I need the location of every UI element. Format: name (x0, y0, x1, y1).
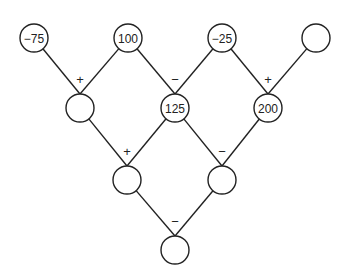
number-pyramid-diagram: +−++−− −75100−25125200 (0, 0, 345, 278)
operator-label: − (171, 72, 179, 87)
edge (184, 119, 222, 166)
edge (127, 119, 166, 166)
node-value: −25 (212, 32, 233, 46)
pyramid-node[interactable] (161, 236, 189, 264)
pyramid-node[interactable]: 100 (114, 24, 142, 52)
pyramid-node[interactable] (66, 94, 94, 122)
pyramid-node[interactable] (302, 24, 330, 52)
pyramid-node[interactable]: −25 (208, 24, 236, 52)
pyramid-node[interactable] (113, 166, 141, 194)
pyramid-node[interactable]: 125 (161, 94, 189, 122)
node-value: −75 (24, 32, 45, 46)
operator-label: + (264, 72, 272, 87)
edge (175, 191, 213, 236)
node-circle (113, 166, 141, 194)
pyramid-node[interactable] (208, 166, 236, 194)
edge (175, 49, 213, 94)
edge (222, 119, 259, 166)
node-value: 125 (165, 102, 185, 116)
edge (137, 49, 175, 94)
operator-label: + (76, 72, 84, 87)
node-circle (208, 166, 236, 194)
operator-label: + (123, 144, 131, 159)
operator-label: − (218, 144, 226, 159)
node-circle (302, 24, 330, 52)
node-value: 100 (118, 32, 138, 46)
edge (43, 49, 80, 94)
edge (268, 49, 307, 94)
edge (136, 191, 175, 236)
edge (231, 49, 268, 94)
pyramid-node[interactable]: −75 (20, 24, 48, 52)
operator-label: − (171, 214, 179, 229)
node-value: 200 (258, 102, 278, 116)
edge (80, 49, 119, 94)
node-circle (66, 94, 94, 122)
pyramid-node[interactable]: 200 (254, 94, 282, 122)
edge (89, 119, 127, 166)
node-circle (161, 236, 189, 264)
